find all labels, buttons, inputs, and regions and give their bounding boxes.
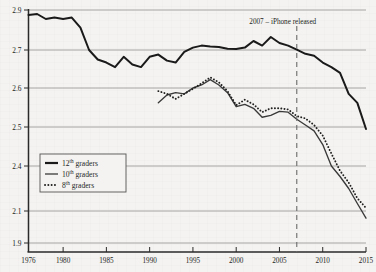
ytick-label: 1.9 — [12, 239, 22, 248]
xtick-label: 1985 — [99, 257, 114, 265]
xtick-label: 1980 — [56, 257, 71, 265]
ytick-label: 2.6 — [12, 84, 22, 93]
ytick-label: 2.7 — [12, 46, 22, 55]
legend-entry-label: 12th graders — [62, 158, 98, 168]
line-chart: 2.92.72.62.52.42.11.91976198019851990199… — [0, 0, 376, 272]
xtick-label: 2005 — [272, 257, 287, 265]
xtick-label: 2015 — [359, 257, 374, 265]
series-line-10th-graders — [158, 80, 366, 219]
series-line-12th-graders — [29, 14, 367, 129]
ytick-label: 2.5 — [12, 123, 22, 132]
series-line-8th-graders — [158, 77, 366, 208]
legend-entry-label: 10th graders — [62, 169, 98, 179]
annotation-label: 2007 – iPhone released — [249, 18, 316, 26]
chart-legend: 12th graders10th graders8th graders — [40, 154, 126, 192]
xtick-label: 1990 — [142, 257, 157, 265]
xtick-label: 2010 — [316, 257, 331, 265]
xtick-label: 1976 — [21, 257, 36, 265]
ytick-label: 2.9 — [12, 6, 22, 15]
axes-group: 2.92.72.62.52.42.11.91976198019851990199… — [12, 6, 373, 265]
xtick-label: 2000 — [229, 257, 244, 265]
chart-container: 2.92.72.62.52.42.11.91976198019851990199… — [0, 0, 376, 272]
ytick-label: 2.1 — [12, 207, 22, 216]
ytick-label: 2.4 — [12, 162, 22, 171]
gridlines-group — [29, 10, 367, 243]
xtick-label: 1995 — [186, 257, 201, 265]
